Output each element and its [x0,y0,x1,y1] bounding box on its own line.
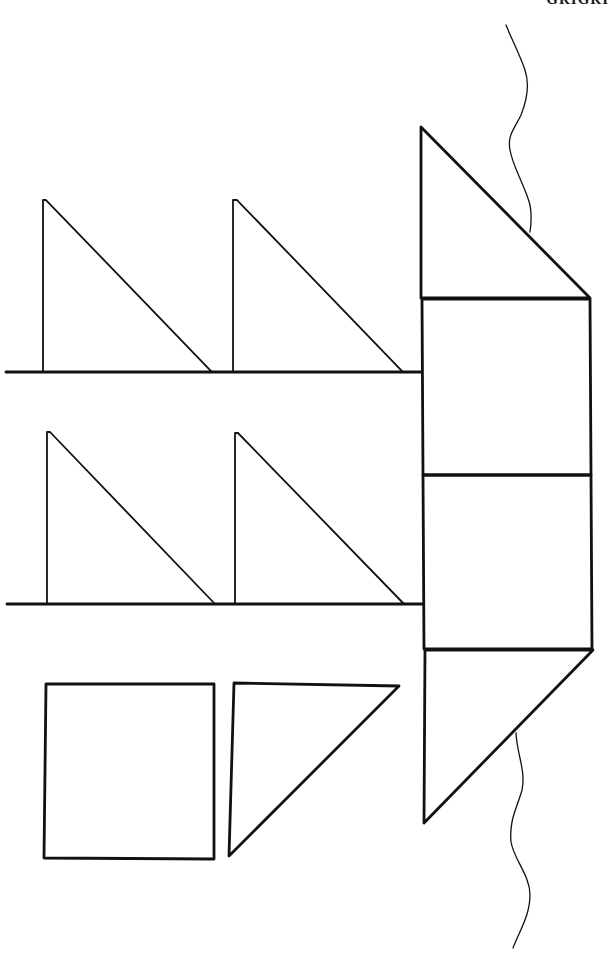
central-bottom-triangle [424,650,593,823]
pattern-diagram [0,0,609,957]
upper-branch-triangle-2 [233,200,403,372]
lower-branch-triangle-2 [235,433,404,604]
bottom-wavy-line [511,733,530,948]
upper-branch-triangle-1 [43,200,212,372]
loose-square [44,684,214,859]
top-wavy-line [506,25,531,232]
central-upper-square [422,299,591,475]
central-top-triangle [421,127,590,298]
central-lower-square [423,475,592,649]
loose-triangle [229,683,399,856]
lower-branch-triangle-1 [47,432,215,604]
